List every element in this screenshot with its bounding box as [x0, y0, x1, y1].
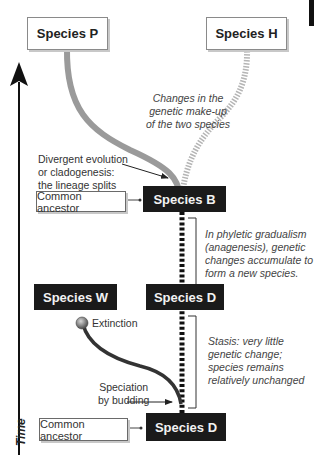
species-b-label: Species B [153, 192, 215, 207]
common-ancestor-top-label: Common ancestor [37, 190, 125, 214]
species-d-mid-label: Species D [154, 290, 216, 305]
species-d-bottom-label: Species D [155, 420, 217, 435]
note-divergent: Divergent evolution or cladogenesis: the… [38, 153, 128, 192]
note-phyletic: In phyletic gradualism (anagenesis), gen… [205, 228, 313, 280]
time-axis-label: Time [14, 418, 28, 446]
species-d-mid-box: Species D [146, 284, 224, 310]
time-axis-arrow [10, 62, 28, 455]
common-ancestor-bottom-box: Common ancestor [39, 418, 128, 441]
note-changes: Changes in the genetic make-up of the tw… [137, 92, 239, 131]
species-h-box: Species H [206, 17, 287, 50]
species-p-box: Species P [27, 17, 108, 50]
species-b-box: Species B [143, 186, 226, 212]
species-w-box: Species W [34, 284, 117, 310]
species-d-bottom-box: Species D [146, 413, 226, 441]
page-edge-bar [309, 0, 314, 26]
species-h-label: Species H [215, 26, 277, 41]
common-ancestor-top-box: Common ancestor [36, 191, 126, 212]
extinction-icon [76, 317, 88, 329]
species-w-label: Species W [43, 290, 108, 305]
bracket-phyletic [188, 218, 196, 287]
common-ancestor-bottom-label: Common ancestor [40, 418, 127, 442]
note-extinction: Extinction [92, 317, 138, 330]
note-budding: Speciation by budding [98, 381, 149, 407]
species-p-label: Species P [37, 26, 98, 41]
note-stasis: Stasis: very little genetic change; spec… [208, 335, 304, 387]
bracket-stasis [188, 316, 196, 408]
